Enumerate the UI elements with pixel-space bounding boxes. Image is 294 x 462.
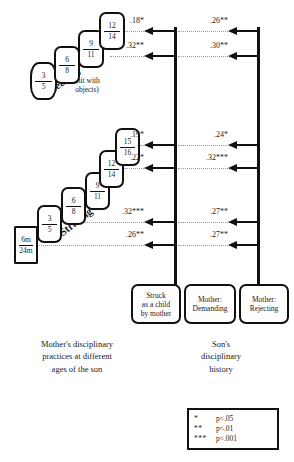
coefficient-r4c2: .32*** xyxy=(188,154,228,162)
coefficient-r1c2: .26** xyxy=(194,17,228,25)
age-box-top-value: 6 xyxy=(65,55,69,65)
caption-left-line1: Mother's disciplinary xyxy=(8,338,146,350)
legend-p-2: p<.01 xyxy=(216,424,237,434)
arrow-head-r6c2 xyxy=(228,241,237,249)
outcome-box-struck-as-child: Struck as a child by mother xyxy=(131,284,181,324)
coefficient-r5c1: .32*** xyxy=(104,208,144,216)
arrow-head-r1c1 xyxy=(144,27,153,35)
arrow-stem-r5c2 xyxy=(236,221,259,223)
arrow-stem-r3c2 xyxy=(236,144,259,146)
age-box-top-value: 6 xyxy=(72,196,76,206)
caption-right-line1: Son's xyxy=(160,338,282,350)
caption-left-line3: ages of the son xyxy=(8,363,146,375)
legend-stars-2: ** xyxy=(194,424,216,434)
arrow-stem-r6c1 xyxy=(152,244,176,246)
outcome-struck-line3: by mother xyxy=(141,309,172,318)
age-box-top-value: 9 xyxy=(89,39,93,49)
arrow-head-r4c1 xyxy=(144,164,153,172)
arrow-head-r2c1 xyxy=(144,52,153,60)
age-box-top-value: 3 xyxy=(42,71,46,81)
legend-p-1: p<.05 xyxy=(216,414,237,424)
significance-legend: * p<.05 ** p<.01 *** p<.001 xyxy=(187,408,279,450)
age-box-beating-3-5: 3 5 xyxy=(30,62,57,100)
caption-right-line3: history xyxy=(160,363,282,375)
outcome-demanding-line1: Mother: xyxy=(193,295,228,304)
outcome-rejecting-line2: Rejecting xyxy=(250,304,279,313)
arrow-head-r3c2 xyxy=(228,141,237,149)
arrow-stem-r1c1 xyxy=(152,30,176,32)
arrow-stem-r4c1 xyxy=(152,167,176,169)
arrow-head-r4c2 xyxy=(228,164,237,172)
arrow-head-r2c2 xyxy=(228,52,237,60)
outcome-box-mother-demanding: Mother: Demanding xyxy=(184,284,236,324)
age-box-bottom-value: 14 xyxy=(108,170,116,180)
age-box-bottom-value: 5 xyxy=(48,225,52,235)
age-box-bottom-value: 11 xyxy=(94,192,101,202)
age-box-bottom-value: 8 xyxy=(65,66,69,76)
trunk-line-rejecting xyxy=(257,27,260,285)
age-box-top-value: 6m xyxy=(21,235,31,245)
legend-row: ** p<.01 xyxy=(194,424,237,434)
coefficient-r2c1: .32** xyxy=(110,42,144,50)
arrow-stem-r5c1 xyxy=(152,221,176,223)
age-box-top-value: 3 xyxy=(48,214,52,224)
age-box-bottom-value: 11 xyxy=(87,50,94,60)
age-box-striking-6m-24m: 6m 24m xyxy=(14,226,38,264)
coefficient-r2c2: .30** xyxy=(194,42,228,50)
outcome-demanding-line2: Demanding xyxy=(193,304,228,313)
arrow-stem-r2c2 xyxy=(236,55,259,57)
coefficient-r6c2: .27** xyxy=(194,231,228,239)
beating-note-line2: objects) xyxy=(58,86,116,95)
arrow-stem-r1c2 xyxy=(236,30,259,32)
arrow-head-r5c2 xyxy=(228,218,237,226)
path-diagram: 3 5 6 8 9 11 12 14 Beating (hit with obj… xyxy=(0,0,294,462)
outcome-box-mother-rejecting: Mother: Rejecting xyxy=(239,284,289,324)
arrow-stem-r4c2 xyxy=(236,167,259,169)
caption-right: Son's disciplinary history xyxy=(160,338,282,375)
caption-left: Mother's disciplinary practices at diffe… xyxy=(8,338,146,375)
coefficient-r3c2: .24* xyxy=(198,131,228,139)
legend-row: * p<.05 xyxy=(194,414,237,424)
coefficient-r5c2: .27** xyxy=(194,208,228,216)
legend-stars-3: *** xyxy=(194,434,216,444)
outcome-struck-line1: Struck xyxy=(141,291,172,300)
age-box-striking-3-5: 3 5 xyxy=(37,205,62,243)
arrow-stem-r2c1 xyxy=(152,55,176,57)
caption-right-line2: disciplinary xyxy=(160,350,282,362)
arrow-head-r6c1 xyxy=(144,241,153,249)
caption-left-line2: practices at different xyxy=(8,350,146,362)
age-box-bottom-value: 14 xyxy=(108,32,116,42)
age-box-bottom-value: 24m xyxy=(19,246,32,256)
outcome-struck-line2: as a child xyxy=(141,300,172,309)
age-box-striking-6-8: 6 8 xyxy=(61,187,86,225)
arrow-stem-r3c1 xyxy=(152,144,176,146)
arrow-head-r1c2 xyxy=(228,27,237,35)
outcome-rejecting-line1: Mother: xyxy=(250,295,279,304)
coefficient-r6c1: .26** xyxy=(110,231,144,239)
trunk-line-demanding xyxy=(174,27,177,285)
arrow-head-r5c1 xyxy=(144,218,153,226)
coefficient-r4c1: .22* xyxy=(114,154,144,162)
arrow-stem-r6c2 xyxy=(236,244,259,246)
age-box-bottom-value: 5 xyxy=(42,82,46,92)
legend-stars-1: * xyxy=(194,414,216,424)
legend-p-3: p<.001 xyxy=(216,434,237,444)
age-box-bottom-value: 8 xyxy=(72,207,76,217)
coefficient-r1c1: .18* xyxy=(114,17,144,25)
legend-row: *** p<.001 xyxy=(194,434,237,444)
arrow-head-r3c1 xyxy=(144,141,153,149)
age-box-beating-6-8: 6 8 xyxy=(54,46,80,84)
coefficient-r3c1: .19* xyxy=(114,131,144,139)
